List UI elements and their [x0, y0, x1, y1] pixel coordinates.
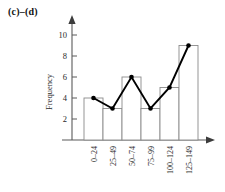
- bar-1: [103, 109, 122, 141]
- y-tick-label-10: 10: [59, 30, 68, 40]
- x-axis-category-labels: 0–24 25–49 50–74 75–99 100–124 125–149: [90, 146, 194, 174]
- y-axis-ticks: 2 4 6 8 10: [59, 30, 78, 124]
- data-point-1: [110, 106, 115, 111]
- x-axis-arrowhead: [206, 137, 215, 144]
- bar-3: [141, 109, 160, 141]
- y-axis-arrowhead: [68, 15, 75, 24]
- y-tick-label-4: 4: [63, 93, 68, 103]
- x-label-1: 25–49: [109, 146, 118, 166]
- data-point-2: [129, 75, 134, 80]
- data-point-3: [148, 106, 153, 111]
- data-point-4: [167, 85, 172, 90]
- histogram-with-frequency-polygon: 2 4 6 8 10 Frequency: [0, 0, 225, 192]
- bar-0: [84, 98, 103, 140]
- y-tick-label-8: 8: [63, 51, 67, 61]
- data-point-5: [186, 43, 191, 48]
- y-axis-title: Frequency: [44, 73, 54, 110]
- x-label-0: 0–24: [90, 146, 99, 162]
- figure-container: (c)–(d) 2 4 6 8 10 Frequency: [0, 0, 225, 192]
- data-point-0: [91, 96, 96, 101]
- x-label-5: 125–149: [185, 146, 194, 174]
- x-label-3: 75–99: [147, 146, 156, 166]
- x-label-2: 50–74: [128, 146, 137, 166]
- y-tick-label-6: 6: [63, 72, 67, 82]
- x-label-4: 100–124: [166, 146, 175, 174]
- y-tick-label-2: 2: [63, 114, 67, 124]
